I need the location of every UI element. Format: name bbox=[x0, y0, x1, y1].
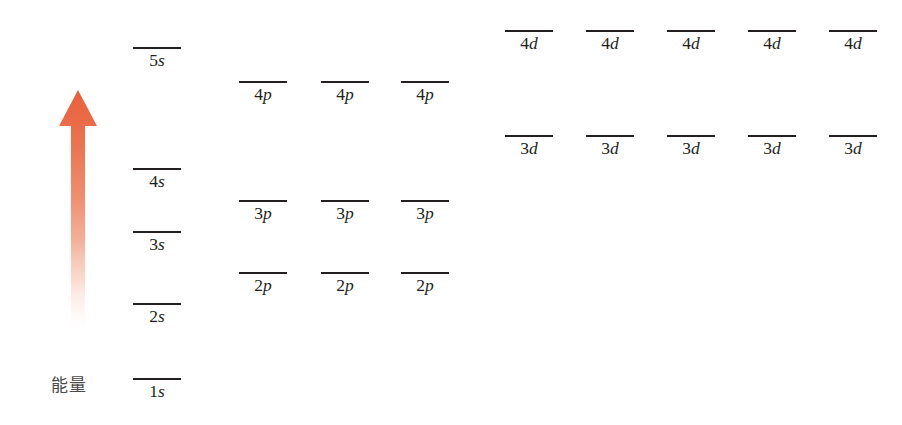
level-label-4d-5: 4d bbox=[829, 33, 877, 54]
level-5s: 5s bbox=[133, 47, 181, 77]
level-bar-2s bbox=[133, 303, 181, 305]
energy-level-diagram: 能量 5s 4s 3s 2s 1s 4p 4p 4p 3p 3p bbox=[0, 0, 902, 425]
level-bar-3d-3 bbox=[667, 135, 715, 137]
level-label-5s: 5s bbox=[133, 50, 181, 71]
level-3s: 3s bbox=[133, 231, 181, 261]
level-bar-4p-3 bbox=[401, 81, 449, 83]
level-label-2p-2: 2p bbox=[321, 275, 369, 296]
level-1s: 1s bbox=[133, 378, 181, 408]
level-label-3d-5: 3d bbox=[829, 138, 877, 159]
level-3p-1: 3p bbox=[239, 200, 287, 230]
level-4d-4: 4d bbox=[748, 30, 796, 60]
level-4p-2: 4p bbox=[321, 81, 369, 111]
energy-axis-label: 能量 bbox=[51, 371, 125, 396]
level-label-3d-3: 3d bbox=[667, 138, 715, 159]
level-label-3d-2: 3d bbox=[586, 138, 634, 159]
level-label-1s: 1s bbox=[133, 381, 181, 402]
level-bar-3d-5 bbox=[829, 135, 877, 137]
level-label-3p-1: 3p bbox=[239, 203, 287, 224]
level-label-4d-1: 4d bbox=[505, 33, 553, 54]
level-4s: 4s bbox=[133, 168, 181, 198]
level-label-4d-4: 4d bbox=[748, 33, 796, 54]
level-label-2p-1: 2p bbox=[239, 275, 287, 296]
level-label-3p-3: 3p bbox=[401, 203, 449, 224]
level-bar-5s bbox=[133, 47, 181, 49]
level-label-2p-3: 2p bbox=[401, 275, 449, 296]
level-bar-3d-1 bbox=[505, 135, 553, 137]
level-bar-4p-1 bbox=[239, 81, 287, 83]
level-2p-2: 2p bbox=[321, 272, 369, 302]
level-3p-3: 3p bbox=[401, 200, 449, 230]
level-bar-3p-1 bbox=[239, 200, 287, 202]
level-bar-3d-2 bbox=[586, 135, 634, 137]
level-bar-4p-2 bbox=[321, 81, 369, 83]
level-4d-1: 4d bbox=[505, 30, 553, 60]
energy-increasing-arrow bbox=[58, 90, 98, 335]
level-4d-2: 4d bbox=[586, 30, 634, 60]
level-bar-3p-2 bbox=[321, 200, 369, 202]
level-bar-3d-4 bbox=[748, 135, 796, 137]
level-3d-5: 3d bbox=[829, 135, 877, 165]
level-3p-2: 3p bbox=[321, 200, 369, 230]
level-label-3d-1: 3d bbox=[505, 138, 553, 159]
level-bar-1s bbox=[133, 378, 181, 380]
level-bar-4d-2 bbox=[586, 30, 634, 32]
level-label-3p-2: 3p bbox=[321, 203, 369, 224]
level-label-4p-3: 4p bbox=[401, 84, 449, 105]
level-label-3s: 3s bbox=[133, 234, 181, 255]
level-2p-3: 2p bbox=[401, 272, 449, 302]
level-bar-4s bbox=[133, 168, 181, 170]
level-bar-4d-1 bbox=[505, 30, 553, 32]
level-label-4d-3: 4d bbox=[667, 33, 715, 54]
level-bar-2p-1 bbox=[239, 272, 287, 274]
level-bar-4d-3 bbox=[667, 30, 715, 32]
level-label-4s: 4s bbox=[133, 171, 181, 192]
level-bar-2p-2 bbox=[321, 272, 369, 274]
level-label-3d-4: 3d bbox=[748, 138, 796, 159]
level-4d-3: 4d bbox=[667, 30, 715, 60]
level-label-4d-2: 4d bbox=[586, 33, 634, 54]
level-3d-2: 3d bbox=[586, 135, 634, 165]
level-4p-3: 4p bbox=[401, 81, 449, 111]
level-bar-2p-3 bbox=[401, 272, 449, 274]
level-4p-1: 4p bbox=[239, 81, 287, 111]
level-bar-4d-5 bbox=[829, 30, 877, 32]
level-label-4p-1: 4p bbox=[239, 84, 287, 105]
level-bar-4d-4 bbox=[748, 30, 796, 32]
level-2p-1: 2p bbox=[239, 272, 287, 302]
level-bar-3p-3 bbox=[401, 200, 449, 202]
level-bar-3s bbox=[133, 231, 181, 233]
level-3d-4: 3d bbox=[748, 135, 796, 165]
level-label-2s: 2s bbox=[133, 306, 181, 327]
level-2s: 2s bbox=[133, 303, 181, 333]
level-label-4p-2: 4p bbox=[321, 84, 369, 105]
level-3d-1: 3d bbox=[505, 135, 553, 165]
level-3d-3: 3d bbox=[667, 135, 715, 165]
level-4d-5: 4d bbox=[829, 30, 877, 60]
